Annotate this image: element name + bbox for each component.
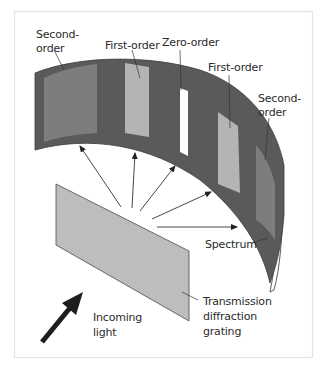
label-first-order-left: First-order (105, 39, 160, 52)
zero-order-patch (180, 88, 188, 156)
label-spectrum: Spectrum (205, 238, 257, 251)
second-order-left-patch (44, 64, 97, 142)
label-zero-order: Zero-order (162, 36, 220, 49)
label-first-order-right: First-order (208, 61, 263, 74)
diffraction-diagram: Second- order First-order Zero-order Fir… (0, 0, 325, 372)
first-order-left-patch (125, 63, 149, 137)
